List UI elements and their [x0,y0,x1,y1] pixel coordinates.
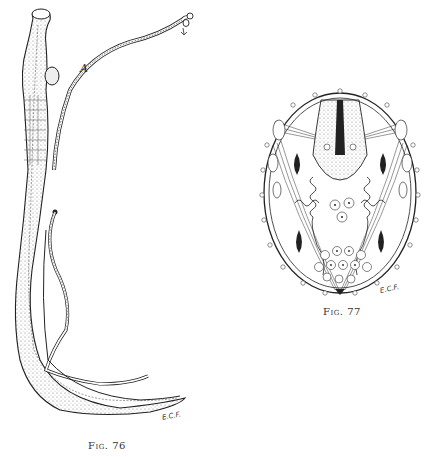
figure-76-caption: Fig. 76 [88,440,126,451]
figure-77-illustration [255,85,425,305]
figure-76-illustration [0,0,240,440]
figure-76-label-a: A [80,62,88,75]
figure-77-caption: Fig. 77 [323,306,361,317]
